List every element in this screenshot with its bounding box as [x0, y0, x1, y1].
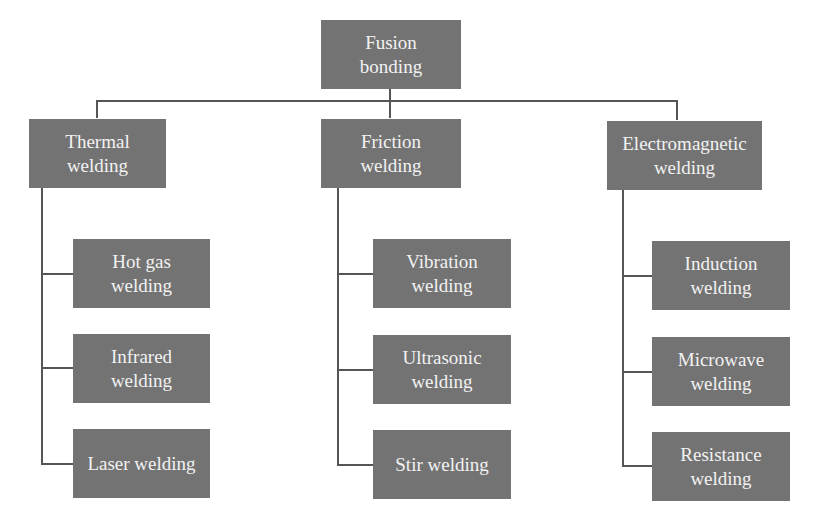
electromagnetic-spine	[622, 190, 624, 466]
leaf-label: Ultrasonic	[402, 347, 481, 368]
leaf-node-microwave-welding: Microwavewelding	[652, 337, 790, 406]
friction-branch-3	[337, 464, 373, 466]
electromagnetic-drop-connector	[676, 100, 678, 120]
leaf-label: welding	[411, 275, 472, 296]
friction-drop-connector	[389, 100, 391, 118]
electromagnetic-branch-3	[622, 465, 652, 467]
category-label: Thermal	[65, 131, 129, 152]
root-label-line2: bonding	[360, 56, 422, 77]
electromagnetic-branch-2	[622, 371, 652, 373]
category-label: welding	[67, 155, 128, 176]
thermal-branch-1	[41, 273, 73, 275]
electromagnetic-branch-1	[622, 275, 652, 277]
thermal-branch-2	[41, 367, 73, 369]
leaf-label: Stir welding	[395, 453, 488, 477]
leaf-node-vibration-welding: Vibrationwelding	[373, 239, 511, 308]
category-node-friction-welding: Frictionwelding	[321, 119, 461, 188]
friction-branch-2	[337, 369, 373, 371]
category-label: welding	[360, 155, 421, 176]
category-label: welding	[654, 157, 715, 178]
leaf-node-hot-gas-welding: Hot gaswelding	[73, 239, 210, 308]
leaf-label: welding	[111, 275, 172, 296]
leaf-node-laser-welding: Laser welding	[73, 429, 210, 498]
root-node-fusion-bonding: Fusionbonding	[321, 20, 461, 89]
thermal-branch-3	[41, 463, 73, 465]
leaf-label: Resistance	[680, 444, 761, 465]
category-label: Friction	[361, 131, 421, 152]
leaf-label: Microwave	[678, 349, 765, 370]
root-label-line1: Fusion	[365, 32, 417, 53]
leaf-node-ultrasonic-welding: Ultrasonicwelding	[373, 335, 511, 404]
leaf-label: welding	[411, 371, 472, 392]
thermal-spine	[41, 188, 43, 464]
thermal-drop-connector	[96, 100, 98, 118]
friction-branch-1	[337, 273, 373, 275]
leaf-label: Infrared	[111, 346, 172, 367]
top-bar-connector	[96, 100, 678, 102]
leaf-label: welding	[690, 373, 751, 394]
leaf-node-stir-welding: Stir welding	[373, 430, 511, 499]
category-label: Electromagnetic	[622, 133, 747, 154]
leaf-node-infrared-welding: Infraredwelding	[73, 334, 210, 403]
leaf-label: welding	[690, 468, 751, 489]
category-node-electromagnetic-welding: Electromagneticwelding	[607, 121, 762, 190]
leaf-label: Laser welding	[87, 452, 195, 476]
leaf-label: Vibration	[406, 251, 478, 272]
leaf-node-induction-welding: Inductionwelding	[652, 241, 790, 310]
leaf-node-resistance-welding: Resistancewelding	[652, 432, 790, 501]
category-node-thermal-welding: Thermalwelding	[29, 119, 166, 188]
leaf-label: welding	[690, 277, 751, 298]
friction-spine	[337, 188, 339, 465]
leaf-label: welding	[111, 370, 172, 391]
leaf-label: Induction	[685, 253, 758, 274]
leaf-label: Hot gas	[112, 251, 171, 272]
